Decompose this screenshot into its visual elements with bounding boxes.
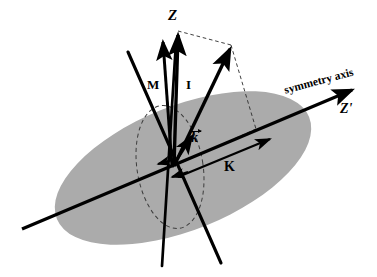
vector-arrow-overbar-icon xyxy=(190,128,198,133)
label-k-vector-text: k xyxy=(190,131,198,145)
label-i-vector: I xyxy=(186,78,191,91)
label-k-vector: k xyxy=(190,128,198,145)
physics-vector-diagram xyxy=(0,0,377,277)
label-m-vector: M xyxy=(147,78,159,91)
label-k-projection: K xyxy=(224,160,235,174)
diagram-canvas: Z M I k K symmetry axis Z' xyxy=(0,0,377,277)
label-z-prime-axis: Z' xyxy=(340,102,352,116)
label-z-axis: Z xyxy=(168,8,177,23)
